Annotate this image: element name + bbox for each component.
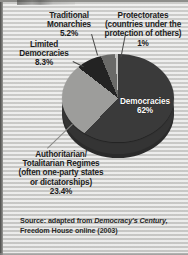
slice-label-line: Authoritarian/: [35, 150, 87, 159]
pie-chart-figure: Traditional Monarchies 5.2% Protectorate…: [0, 0, 188, 255]
slice-value-democracies: 62%: [137, 106, 153, 115]
slice-label-limited-democracies: Limited Democracies 8.3%: [10, 40, 78, 68]
slice-label-line: Democracies: [19, 49, 68, 58]
slice-value-limited-democracies: 8.3%: [10, 58, 78, 67]
page-edge-left: [0, 0, 3, 255]
slice-label-line: Democracies: [120, 97, 170, 106]
source-note: Source: adapted from Democracy's Century…: [20, 216, 180, 235]
slice-value-traditional-monarchies: 5.2%: [39, 29, 99, 38]
source-prefix: Source: adapted from: [20, 216, 94, 225]
slice-label-line: Limited: [30, 40, 58, 49]
slice-label-protectorates: Protectorates (countries under the prote…: [100, 11, 186, 48]
source-publication-title: Democracy's Century,: [94, 216, 167, 225]
slice-label-line: Totalitarian Regimes: [23, 159, 100, 168]
slice-label-line: Protectorates: [118, 11, 169, 20]
slice-label-democracies: Democracies 62%: [112, 97, 178, 116]
cut-off-text-remnant: [17, 0, 75, 5]
slice-label-line: (often one-party states: [19, 168, 104, 177]
slice-value-protectorates: 1%: [100, 39, 186, 48]
slice-label-authoritarian: Authoritarian/ Totalitarian Regimes (oft…: [2, 150, 120, 196]
slice-label-line: (countries under the: [105, 20, 181, 29]
slice-label-traditional-monarchies: Traditional Monarchies 5.2%: [39, 11, 99, 39]
slice-label-line: or dictatorships): [30, 178, 92, 187]
source-suffix: Freedom House online (2003): [20, 226, 118, 235]
slice-label-line: protection of others): [105, 29, 182, 38]
slice-label-line: Traditional: [49, 11, 89, 20]
slice-label-line: Monarchies: [47, 20, 91, 29]
slice-value-authoritarian: 23.4%: [2, 187, 120, 196]
